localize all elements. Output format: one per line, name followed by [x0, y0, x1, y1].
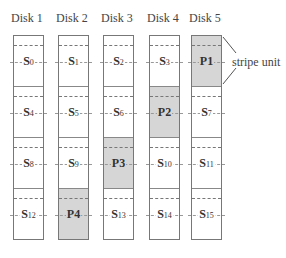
stripe-unit-bracket-icon — [0, 0, 286, 258]
